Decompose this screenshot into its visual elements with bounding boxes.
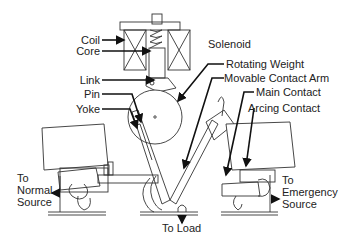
rotating-weight-label: Rotating Weight [226, 58, 304, 70]
movable-contact-arm-label: Movable Contact Arm [224, 72, 329, 84]
solenoid-label: Solenoid [208, 38, 251, 50]
normal-source-label-3: Source [17, 196, 52, 208]
transfer-switch-diagram: Coil Core Link Pin Yoke Solenoid Rotatin… [0, 0, 346, 246]
load-label: To Load [162, 222, 201, 234]
link-label: Link [80, 74, 101, 86]
main-contact-label: Main Contact [256, 86, 321, 98]
core-label: Core [76, 45, 100, 57]
emergency-source-label-1: To [282, 174, 294, 186]
normal-source-label-2: Normal [17, 184, 52, 196]
yoke-label: Yoke [76, 103, 100, 115]
solenoid [120, 14, 190, 78]
normal-source-label-1: To [17, 172, 29, 184]
rotating-weight [128, 90, 182, 144]
emergency-source-label-2: Emergency [282, 186, 338, 198]
emergency-source-label-3: Source [282, 198, 317, 210]
pin-label: Pin [84, 88, 100, 100]
arcing-contact-label: Arcing Contact [248, 102, 320, 114]
